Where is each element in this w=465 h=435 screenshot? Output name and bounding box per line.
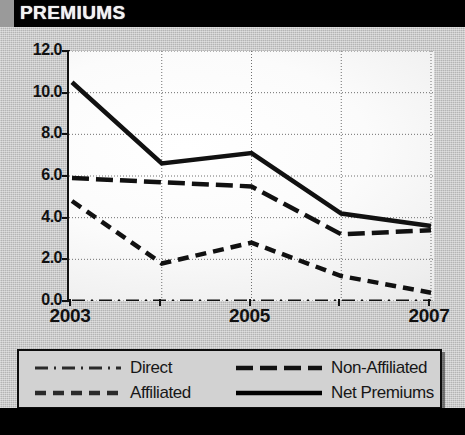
x-tick-mark	[428, 299, 430, 306]
x-tick-label: 2005	[229, 305, 270, 327]
legend-line-swatch	[33, 383, 123, 403]
legend-line-swatch	[33, 358, 123, 378]
y-tick-label: 12.0	[4, 41, 62, 59]
title-accent-bar	[0, 0, 14, 27]
legend-line-swatch	[234, 358, 324, 378]
legend-item[interactable]: Direct	[33, 355, 172, 381]
legend-item[interactable]: Net Premiums	[234, 380, 434, 406]
bottom-bar	[0, 408, 465, 435]
legend-line-swatch	[234, 383, 324, 403]
x-tick-mark	[159, 299, 161, 306]
y-tick-label: 4.0	[4, 208, 62, 226]
legend-label: Affiliated	[130, 383, 191, 403]
chart-screenshot: PREMIUMS 0.02.04.06.08.010.012.0 2003200…	[0, 0, 465, 435]
y-tick-label: 2.0	[4, 249, 62, 267]
y-axis-tick-labels: 0.02.04.06.08.010.012.0	[0, 51, 62, 301]
x-axis-tick-labels: 200320052007	[67, 305, 432, 331]
x-tick-mark	[249, 299, 251, 306]
legend-item[interactable]: Affiliated	[33, 380, 191, 406]
x-tick-label: 2007	[408, 305, 449, 327]
x-tick-label: 2003	[49, 305, 90, 327]
plot-svg	[69, 51, 434, 301]
x-tick-mark	[338, 299, 340, 306]
y-tick-label: 10.0	[4, 83, 62, 101]
chart-panel: 0.02.04.06.08.010.012.0 200320052007 Dir…	[0, 27, 465, 408]
title-bar: PREMIUMS	[0, 0, 465, 27]
y-tick-label: 8.0	[4, 124, 62, 142]
y-tick-label: 6.0	[4, 166, 62, 184]
legend-label: Direct	[130, 358, 172, 378]
legend-item[interactable]: Non-Affiliated	[234, 355, 427, 381]
legend-label: Net Premiums	[331, 383, 434, 403]
chart-legend: DirectAffiliatedNon-AffiliatedNet Premiu…	[17, 349, 442, 409]
page-title: PREMIUMS	[20, 2, 126, 24]
x-tick-mark	[69, 299, 71, 306]
legend-label: Non-Affiliated	[331, 358, 427, 378]
plot-area	[67, 51, 432, 301]
